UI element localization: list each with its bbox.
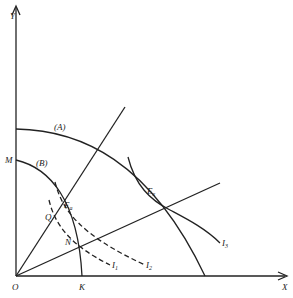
i3-label: I3 — [221, 238, 228, 249]
x-axis-label: X — [281, 282, 288, 292]
origin-label: O — [12, 282, 19, 292]
point-n-label: N — [64, 237, 72, 247]
point-q-label: Q — [45, 212, 52, 222]
point-m-label: M — [4, 155, 13, 165]
diagram-canvas: Y X O K M (A) (B) Q N Ea Ex I1 I2 I3 — [0, 0, 293, 298]
point-k-label: K — [78, 282, 86, 292]
point-ea-label: Ea — [63, 200, 73, 211]
y-axis-label: Y — [10, 11, 16, 21]
i2-label: I2 — [145, 260, 152, 271]
ppf-a-label: (A) — [54, 122, 66, 132]
point-ex-label: Ex — [146, 186, 156, 197]
ppf-b-label: (B) — [36, 158, 48, 168]
indifference-curve-i3 — [128, 157, 220, 243]
i1-label: I1 — [111, 260, 118, 271]
